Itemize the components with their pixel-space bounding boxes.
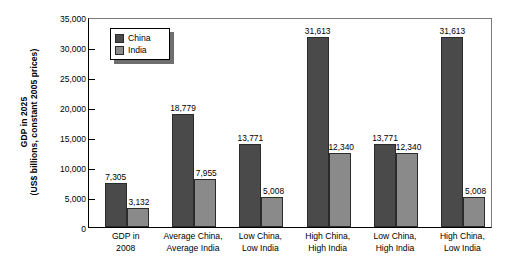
bar-value-label: 31,613 — [305, 26, 331, 36]
bar-value-label: 5,008 — [263, 186, 284, 196]
bar-china: 18,779 — [172, 114, 194, 227]
bar-india: 5,008 — [463, 197, 485, 227]
bar-value-label: 3,132 — [128, 197, 149, 207]
y-axis-tick-label: 5,000 — [65, 194, 86, 204]
bar-value-label: 7,305 — [105, 172, 126, 182]
legend-swatch-china — [115, 34, 124, 43]
gdp-bar-chart: GDP in 2025 (US$ billions, constant 2005… — [0, 0, 508, 270]
bar-value-label: 7,955 — [196, 168, 217, 178]
x-axis-label-line: High China, — [422, 231, 502, 243]
bar-india: 12,340 — [396, 153, 418, 227]
bar-value-label: 18,779 — [170, 103, 196, 113]
bar-group: 31,6135,008 — [441, 19, 485, 227]
bar-value-label: 13,771 — [372, 133, 398, 143]
bar-value-label: 31,613 — [440, 26, 466, 36]
bar-group: 18,7797,955 — [172, 19, 216, 227]
bar-value-label: 12,340 — [396, 142, 422, 152]
bar-value-label: 13,771 — [238, 133, 264, 143]
y-axis-tick-label: 35,000 — [60, 14, 86, 24]
bar-value-label: 5,008 — [465, 186, 486, 196]
bar-group: 13,77112,340 — [374, 19, 418, 227]
y-axis-tick-label: 25,000 — [60, 74, 86, 84]
bar-value-label: 12,340 — [328, 142, 354, 152]
legend-item-india: India — [115, 45, 165, 56]
bar-india: 7,955 — [194, 179, 216, 227]
bar-china: 31,613 — [307, 37, 329, 227]
bar-india: 12,340 — [329, 153, 351, 227]
bar-group: 13,7715,008 — [239, 19, 283, 227]
bar-china: 7,305 — [105, 183, 127, 227]
bar-china: 13,771 — [239, 144, 261, 227]
bar-china: 13,771 — [374, 144, 396, 227]
legend-item-china: China — [115, 33, 165, 44]
legend: China India — [110, 28, 170, 60]
y-axis-title-line2: (US$ billions, constant 2005 prices) — [29, 49, 39, 196]
y-axis-tick-label: 10,000 — [60, 164, 86, 174]
legend-swatch-india — [115, 46, 124, 55]
y-axis-tick-label: 15,000 — [60, 134, 86, 144]
bar-india: 5,008 — [261, 197, 283, 227]
legend-label-india: India — [128, 45, 147, 55]
x-axis-labels: GDP in2008Average China,Average IndiaLow… — [88, 231, 492, 269]
bar-india: 3,132 — [127, 208, 149, 227]
bar-china: 31,613 — [441, 37, 463, 227]
y-axis-title-line1: GDP in 2025 — [19, 97, 29, 148]
bar-group: 31,61312,340 — [307, 19, 351, 227]
y-axis-title: GDP in 2025 (US$ billions, constant 2005… — [14, 22, 44, 222]
y-axis-tick-label: 20,000 — [60, 104, 86, 114]
legend-label-china: China — [128, 33, 150, 43]
y-axis-tick-label: 30,000 — [60, 44, 86, 54]
x-axis-label: High China,Low India — [422, 231, 502, 255]
x-axis-label-line: Low India — [422, 243, 502, 255]
